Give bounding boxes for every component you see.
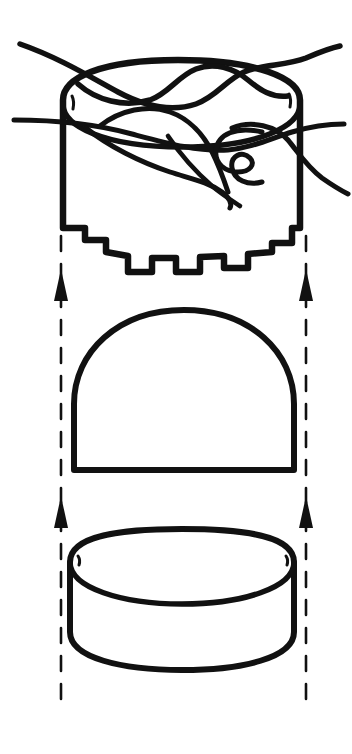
bottom-ring-tick-right [286,556,288,565]
top-cap-rim-tick-left [72,96,74,109]
exploded-assembly-drawing [0,0,352,754]
figure-root: Exploded assembly line drawing top-cap-w… [0,0,352,754]
bottom-ring-tick-left [78,556,80,565]
